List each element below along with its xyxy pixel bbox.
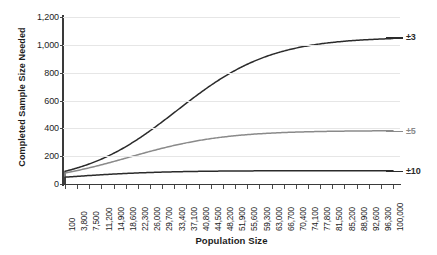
x-axis-tick-mark (284, 185, 285, 189)
x-axis-tick-label: 11,200 (105, 208, 114, 231)
series-line (65, 39, 393, 184)
x-axis-tick-mark (101, 185, 102, 189)
x-axis-tick-mark (162, 185, 163, 189)
series-leader-line (386, 171, 403, 173)
x-axis-tick-label: 18,600 (129, 207, 138, 231)
x-axis-tick-label: 66,700 (287, 207, 296, 231)
y-axis-tick-label: 400 (18, 124, 59, 133)
x-axis-tick-mark (235, 185, 236, 189)
x-axis-tick-mark (114, 185, 115, 189)
plot-area (63, 17, 400, 184)
x-axis-tick-mark (186, 185, 187, 189)
gridline (63, 101, 400, 102)
y-axis-tick-label: 1,200 (18, 13, 59, 22)
x-axis-tick-label: 88,900 (360, 207, 369, 231)
x-axis-tick-label: 85,200 (348, 207, 357, 231)
x-axis-tick-label: 22,300 (141, 207, 150, 231)
x-axis-tick-label: 3,800 (80, 212, 89, 232)
x-axis-tick-label: 33,400 (178, 207, 187, 231)
y-axis-tick-label: 0 (18, 180, 59, 189)
x-axis-tick-label: 70,400 (299, 207, 308, 231)
x-axis-tick-mark (174, 185, 175, 189)
gridline (63, 17, 400, 18)
x-axis-tick-label: 74,100 (311, 207, 320, 231)
series-label: ±5 (406, 126, 416, 136)
gridline (63, 45, 400, 46)
x-axis-tick-label: 37,100 (190, 207, 199, 231)
x-axis-tick-mark (381, 185, 382, 189)
x-axis-tick-label: 29,700 (165, 207, 174, 231)
series-leader-line (386, 131, 403, 133)
x-axis-tick-mark (357, 185, 358, 189)
x-axis-tick-mark (308, 185, 309, 189)
chart-figure: Completed Sample Size Needed 02004006008… (0, 0, 437, 255)
x-axis-tick-label: 63,000 (275, 207, 284, 231)
x-axis-tick-label: 59,300 (263, 207, 272, 231)
series-leader-line (386, 37, 403, 39)
x-axis-tick-mark (393, 185, 394, 189)
x-axis-tick-mark (332, 185, 333, 189)
x-axis-tick-mark (369, 185, 370, 189)
x-axis-tick-mark (247, 185, 248, 189)
x-axis-tick-mark (150, 185, 151, 189)
x-axis-tick-label: 14,900 (117, 207, 126, 231)
x-axis-tick-mark (223, 185, 224, 189)
gridline (63, 73, 400, 74)
x-axis-tick-mark (65, 185, 66, 189)
y-axis-tick-label: 200 (18, 152, 59, 161)
x-axis-tick-label: 26,000 (153, 207, 162, 231)
x-axis-tick-mark (211, 185, 212, 189)
x-axis-tick-mark (138, 185, 139, 189)
series-line (65, 171, 393, 184)
x-axis-tick-label: 44,500 (214, 207, 223, 231)
x-axis-tick-mark (259, 185, 260, 189)
y-axis-tick-label: 800 (18, 69, 59, 78)
gridline (63, 156, 400, 157)
x-axis-tick-mark (344, 185, 345, 189)
x-axis-tick-label: 48,200 (226, 207, 235, 231)
x-axis-tick-label: 92,600 (372, 207, 381, 231)
x-axis-tick-mark (89, 185, 90, 189)
x-axis-tick-mark (77, 185, 78, 189)
x-axis-tick-mark (296, 185, 297, 189)
x-axis-tick-label: 96,300 (384, 207, 393, 231)
x-axis-title: Population Size (63, 235, 400, 246)
x-axis-tick-label: 100 (68, 218, 77, 231)
x-axis-tick-label: 51,900 (238, 207, 247, 231)
y-axis-tick-labels: 02004006008001,0001,200 (18, 0, 59, 255)
series-line (65, 131, 393, 184)
x-axis-tick-label: 40,800 (202, 207, 211, 231)
series-label: ±3 (406, 32, 416, 42)
x-axis-tick-mark (320, 185, 321, 189)
x-axis-tick-mark (126, 185, 127, 189)
x-axis-tick-label: 55,600 (250, 207, 259, 231)
x-axis-tick-mark (199, 185, 200, 189)
x-axis-tick-label: 100,000 (396, 203, 405, 231)
x-axis-tick-mark (272, 185, 273, 189)
x-axis-tick-label: 7,500 (92, 212, 101, 232)
x-axis-tick-label: 81,500 (335, 207, 344, 231)
y-axis-tick-label: 600 (18, 97, 59, 106)
series-label: ±10 (406, 166, 421, 176)
y-axis-tick-label: 1,000 (18, 41, 59, 50)
gridline (63, 128, 400, 129)
x-axis-tick-label: 77,800 (323, 207, 332, 231)
